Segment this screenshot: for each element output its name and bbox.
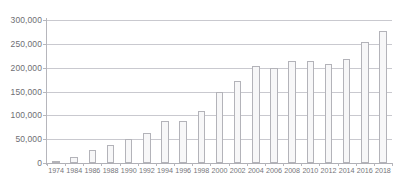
bar[interactable] [379, 31, 387, 163]
x-tick-mark [247, 163, 248, 166]
x-axis-line [46, 163, 392, 164]
x-tick-mark [65, 163, 66, 166]
x-tick-label: 2010 [302, 166, 318, 175]
bar[interactable] [125, 139, 133, 163]
y-tick-mark [43, 44, 46, 45]
x-tick-mark [210, 163, 211, 166]
bar[interactable] [270, 68, 278, 163]
bar[interactable] [325, 64, 333, 163]
plot-area [47, 20, 392, 163]
y-tick-label: 50,000 [15, 134, 42, 144]
y-axis-labels: 300,000250,000200,000150,000100,00050,00… [0, 0, 42, 186]
x-tick-mark [47, 163, 48, 166]
y-tick-mark [43, 92, 46, 93]
bar[interactable] [179, 121, 187, 163]
bar[interactable] [70, 157, 78, 163]
gridline [47, 68, 392, 69]
bar[interactable] [343, 59, 351, 163]
x-tick-mark [156, 163, 157, 166]
x-tick-label: 2004 [248, 166, 264, 175]
bar[interactable] [361, 42, 369, 163]
bar[interactable] [161, 121, 169, 163]
y-tick-mark [43, 139, 46, 140]
bar[interactable] [198, 111, 206, 163]
x-tick-mark [392, 163, 393, 166]
bar[interactable] [52, 161, 60, 163]
x-tick-label: 1988 [103, 166, 119, 175]
x-tick-mark [356, 163, 357, 166]
y-tick-label: 200,000 [11, 63, 42, 73]
x-tick-mark [101, 163, 102, 166]
y-tick-label: 150,000 [11, 87, 42, 97]
x-tick-mark [120, 163, 121, 166]
bar[interactable] [143, 133, 151, 164]
bar[interactable] [234, 81, 242, 163]
bar-chart: 300,000250,000200,000150,000100,00050,00… [0, 0, 396, 186]
x-tick-mark [83, 163, 84, 166]
x-tick-label: 2018 [375, 166, 391, 175]
x-tick-label: 2012 [321, 166, 337, 175]
x-tick-label: 2002 [230, 166, 246, 175]
chart-title [80, 0, 280, 4]
x-tick-mark [192, 163, 193, 166]
bar[interactable] [307, 61, 315, 163]
x-tick-label: 2008 [284, 166, 300, 175]
y-tick-mark [43, 115, 46, 116]
x-tick-mark [338, 163, 339, 166]
x-tick-mark [174, 163, 175, 166]
y-tick-label: 100,000 [11, 110, 42, 120]
x-tick-label: 2014 [339, 166, 355, 175]
x-axis-labels: 1974198419861988199019921994199619982000… [0, 166, 396, 182]
gridline [47, 20, 392, 21]
x-tick-label: 2016 [357, 166, 373, 175]
y-tick-label: 250,000 [11, 39, 42, 49]
x-tick-label: 1986 [84, 166, 100, 175]
x-tick-label: 2000 [212, 166, 228, 175]
x-tick-label: 1998 [193, 166, 209, 175]
x-tick-label: 1996 [175, 166, 191, 175]
y-tick-mark [43, 68, 46, 69]
x-tick-label: 1984 [66, 166, 82, 175]
x-tick-mark [319, 163, 320, 166]
bar[interactable] [252, 66, 260, 163]
x-tick-label: 2006 [266, 166, 282, 175]
y-tick-mark [43, 163, 46, 164]
x-tick-mark [301, 163, 302, 166]
bar[interactable] [89, 150, 97, 163]
x-tick-label: 1990 [121, 166, 137, 175]
x-tick-mark [229, 163, 230, 166]
x-tick-mark [138, 163, 139, 166]
gridline [47, 44, 392, 45]
bar[interactable] [216, 92, 224, 163]
bar[interactable] [107, 145, 115, 163]
y-tick-mark [43, 20, 46, 21]
x-tick-mark [265, 163, 266, 166]
x-tick-label: 1974 [48, 166, 64, 175]
x-tick-mark [283, 163, 284, 166]
x-tick-label: 1994 [157, 166, 173, 175]
y-tick-label: 300,000 [11, 15, 42, 25]
x-tick-mark [374, 163, 375, 166]
x-tick-label: 1992 [139, 166, 155, 175]
bar[interactable] [288, 61, 296, 163]
